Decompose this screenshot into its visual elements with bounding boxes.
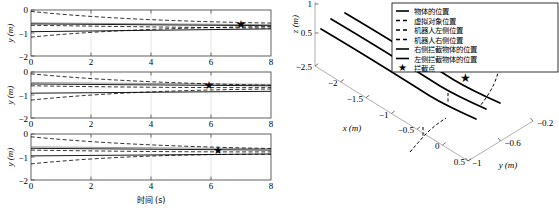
svg-text:−2: −2 xyxy=(18,52,28,62)
xlabel-3d: x (m) xyxy=(342,123,362,133)
z-axis-ticks: 1 0.5 xyxy=(301,0,319,38)
svg-text:8: 8 xyxy=(269,57,274,67)
x-axis-line xyxy=(315,66,468,161)
svg-text:0: 0 xyxy=(435,141,440,151)
intercept-point-star-2: ★ xyxy=(204,79,214,91)
svg-text:0.5: 0.5 xyxy=(454,157,466,167)
right-panel-svg: 1 0.5 z (m) −2.5 −2 −1.5 −1 −0.5 0 0.5 xyxy=(290,0,559,220)
left-panel-svg: ★ 0 −1 −2 0 2 4 6 8 y (m) xyxy=(0,0,290,220)
legend-label: 物体的位置 xyxy=(414,7,449,16)
svg-text:8: 8 xyxy=(269,181,274,191)
svg-text:4: 4 xyxy=(149,57,154,67)
legend-label: 虚拟对象位置 xyxy=(414,17,456,26)
legend-label: 左侧拦截物体的位置 xyxy=(414,55,477,64)
svg-text:−1: −1 xyxy=(18,29,28,39)
svg-text:−1: −1 xyxy=(18,153,28,163)
svg-text:4: 4 xyxy=(149,119,154,129)
ylabel-3d: y (m) xyxy=(498,160,518,170)
svg-text:6: 6 xyxy=(209,119,214,129)
subplot-1: ★ 0 −1 −2 0 2 4 6 8 y (m) xyxy=(5,5,274,67)
svg-text:2: 2 xyxy=(89,181,94,191)
legend-label: 拦截点 xyxy=(414,64,436,73)
legend-label: 机器人左侧位置 xyxy=(414,26,463,35)
svg-text:0: 0 xyxy=(29,119,34,129)
svg-text:0: 0 xyxy=(29,57,34,67)
intercept-point-star-1: ★ xyxy=(236,18,246,30)
svg-text:0: 0 xyxy=(24,5,29,15)
svg-text:−1: −1 xyxy=(18,91,28,101)
svg-text:−2: −2 xyxy=(18,114,28,124)
legend-swatch-star-icon: ★ xyxy=(398,62,407,73)
subplot-1-ylabel: y (m) xyxy=(5,24,15,44)
svg-text:4: 4 xyxy=(149,181,154,191)
subplot-2-xtick-labels: 0 2 4 6 8 xyxy=(29,119,274,129)
subplot-1-xtick-labels: 0 2 4 6 8 xyxy=(29,57,274,67)
svg-text:−2: −2 xyxy=(18,176,28,186)
svg-text:2: 2 xyxy=(89,57,94,67)
legend-label: 右侧拦截物体的位置 xyxy=(414,45,477,54)
subplot-2-yticks xyxy=(31,72,35,118)
subplot-2-ylabel: y (m) xyxy=(5,86,15,106)
legend: 物体的位置 虚拟对象位置 机器人左侧位置 机器人右侧位置 右侧拦截物体的位置 xyxy=(392,3,558,73)
left-panel-2d-subplots: ★ 0 −1 −2 0 2 4 6 8 y (m) xyxy=(0,0,290,220)
svg-text:6: 6 xyxy=(209,57,214,67)
subplot-3: ★ 0 −1 −2 0 2 4 6 8 y (m) xyxy=(5,129,274,191)
subplot-3-xtick-labels: 0 2 4 6 8 xyxy=(29,181,274,191)
svg-text:−1: −1 xyxy=(379,110,389,120)
figure-root: ★ 0 −1 −2 0 2 4 6 8 y (m) xyxy=(0,0,559,220)
zlabel-3d: z (m) xyxy=(290,15,300,34)
series-robot-left-3d xyxy=(410,118,446,152)
svg-text:−0.6: −0.6 xyxy=(505,138,522,148)
svg-text:−2: −2 xyxy=(328,78,338,88)
svg-text:2: 2 xyxy=(89,119,94,129)
svg-text:0: 0 xyxy=(24,129,29,139)
subplot-1-ytick-labels: 0 −1 −2 xyxy=(18,5,28,62)
svg-text:1: 1 xyxy=(308,0,313,9)
svg-text:8: 8 xyxy=(269,119,274,129)
svg-text:−0.2: −0.2 xyxy=(537,118,553,128)
svg-text:−2.5: −2.5 xyxy=(296,62,313,72)
left-panel-xlabel: 时间 (s) xyxy=(137,195,166,205)
legend-label: 机器人右侧位置 xyxy=(414,36,463,45)
intercept-point-star-3: ★ xyxy=(213,144,223,156)
intercept-point-star-3d: ★ xyxy=(460,71,471,85)
svg-text:−1.5: −1.5 xyxy=(347,94,364,104)
right-panel-3d-plot: 1 0.5 z (m) −2.5 −2 −1.5 −1 −0.5 0 0.5 xyxy=(290,0,559,220)
svg-text:0: 0 xyxy=(24,67,29,77)
svg-text:−0.5: −0.5 xyxy=(398,125,415,135)
subplot-3-gridlines xyxy=(91,134,211,180)
legend-item-6[interactable]: ★ 拦截点 xyxy=(398,62,436,73)
subplot-2-ytick-labels: 0 −1 −2 xyxy=(18,67,28,124)
subplot-2: ★ 0 −1 −2 0 2 4 6 8 y (m) xyxy=(5,67,274,129)
subplot-1-yticks xyxy=(31,10,35,56)
svg-text:0: 0 xyxy=(29,181,34,191)
svg-text:−1: −1 xyxy=(472,158,482,168)
subplot-1-gridlines xyxy=(91,10,211,56)
subplot-3-ylabel: y (m) xyxy=(5,148,15,168)
x-axis-ticks: −2.5 −2 −1.5 −1 −0.5 0 0.5 xyxy=(296,62,472,167)
subplot-3-yticks xyxy=(31,134,35,180)
svg-text:0.5: 0.5 xyxy=(301,28,313,38)
svg-text:6: 6 xyxy=(209,181,214,191)
subplot-3-ytick-labels: 0 −1 −2 xyxy=(18,129,28,186)
subplot-2-gridlines xyxy=(91,72,211,118)
